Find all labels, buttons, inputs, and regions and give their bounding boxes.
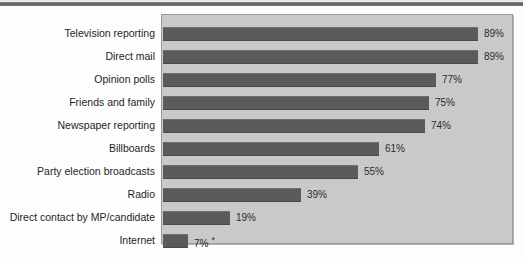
bar-row: 74% [162,115,512,138]
horizontal-bar-chart: 89%89%77%75%74%61%55%39%19%7%* Televisio… [0,0,523,262]
bar-row: 39% [162,184,512,207]
bar [163,188,301,202]
bar-row: 55% [162,161,512,184]
bar-row: 89% [162,23,512,46]
bar-row: 75% [162,92,512,115]
bar-value-label: 61% [385,141,405,156]
category-label: Friends and family [69,91,155,114]
bar-value-label: 74% [431,118,451,133]
bar [163,50,478,64]
bar-value-label: 55% [364,164,384,179]
bar [163,211,230,225]
footnote-asterisk: * [211,235,215,245]
bar-row: 19% [162,207,512,230]
category-label: Direct contact by MP/candidate [10,206,155,229]
category-label: Party election broadcasts [37,160,155,183]
category-label: Direct mail [105,45,155,68]
bar-value-label: 89% [484,49,504,64]
bar [163,96,429,110]
bar-value-label: 39% [307,187,327,202]
bar-row: 7%* [162,230,512,253]
category-label: Billboards [109,137,155,160]
bar [163,27,478,41]
bar-row: 77% [162,69,512,92]
scan-artifact-dark-band [0,2,523,6]
category-label: Television reporting [65,22,155,45]
category-label: Newspaper reporting [58,114,155,137]
bar-value-label: 77% [442,72,462,87]
category-label: Opinion polls [94,68,155,91]
bar [163,142,379,156]
plot-area: 89%89%77%75%74%61%55%39%19%7%* [161,14,513,244]
bar-row: 61% [162,138,512,161]
bar [163,73,436,87]
bar-value-label: 7%* [194,233,215,251]
bar [163,234,188,248]
category-label: Internet [119,229,155,252]
bar-row: 89% [162,46,512,69]
bar-value-label: 19% [236,210,256,225]
bar-value-label: 75% [435,95,455,110]
bar [163,165,358,179]
category-label: Radio [128,183,155,206]
bar [163,119,425,133]
bar-value-label: 89% [484,26,504,41]
